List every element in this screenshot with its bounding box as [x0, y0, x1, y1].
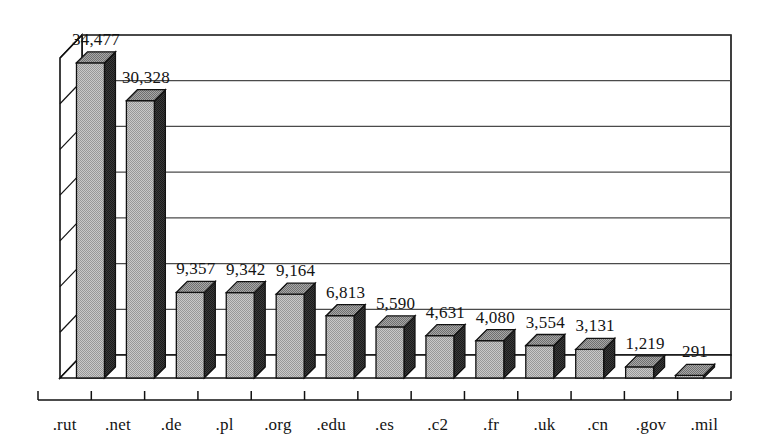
bar-net	[126, 90, 165, 378]
bar-front-face	[76, 63, 104, 378]
chart-canvas: 34,47730,3289,3579,3429,1646,8135,5904,6…	[0, 0, 771, 447]
bar-side-face	[104, 52, 115, 378]
bar-chart-figure: 34,47730,3289,3579,3429,1646,8135,5904,6…	[0, 0, 771, 447]
axis-group	[38, 391, 731, 400]
bar-front-face	[576, 349, 604, 378]
bar-c2	[426, 325, 465, 378]
bar-edu	[326, 305, 365, 378]
category-label-rut: .rut	[53, 415, 77, 434]
value-label-mil: 291	[682, 342, 708, 361]
value-label-org: 9,164	[276, 261, 316, 280]
value-label-gov: 1,219	[625, 334, 664, 353]
bar-front-face	[126, 101, 154, 378]
bar-front-face	[276, 294, 304, 378]
bar-side-face	[354, 305, 365, 378]
value-label-uk: 3,554	[526, 313, 566, 332]
bar-front-face	[326, 316, 354, 378]
bar-rut	[76, 52, 115, 378]
category-label-uk: .uk	[533, 415, 555, 434]
bar-side-face	[304, 283, 315, 378]
bar-uk	[526, 335, 565, 378]
category-label-fr: .fr	[483, 415, 499, 434]
bar-front-face	[176, 292, 204, 378]
value-label-de: 9,357	[176, 259, 216, 278]
value-label-edu: 6,813	[326, 283, 365, 302]
value-label-pl: 9,342	[226, 260, 265, 279]
bar-de	[176, 281, 215, 378]
category-label-c2: .c2	[427, 415, 448, 434]
bar-front-face	[376, 327, 404, 378]
value-label-rut: 34,477	[72, 30, 120, 49]
bar-side-face	[154, 90, 165, 378]
bar-side-face	[254, 282, 265, 378]
value-label-fr: 4,080	[476, 308, 515, 327]
category-label-de: .de	[161, 415, 182, 434]
category-label-pl: .pl	[216, 415, 234, 434]
bar-front-face	[526, 346, 554, 378]
value-label-es: 5,590	[376, 294, 415, 313]
bar-fr	[476, 330, 515, 378]
bar-pl	[226, 282, 265, 378]
category-label-org: .org	[264, 415, 292, 434]
bar-org	[276, 283, 315, 378]
category-label-mil: .mil	[690, 415, 718, 434]
category-label-gov: .gov	[636, 415, 667, 434]
bar-es	[376, 316, 415, 378]
bar-front-face	[226, 293, 254, 378]
value-label-c2: 4,631	[426, 303, 465, 322]
category-label-net: .net	[105, 415, 131, 434]
bar-cn	[576, 338, 615, 378]
bar-front-face	[426, 336, 454, 378]
bar-side-face	[204, 281, 215, 378]
category-label-cn: .cn	[587, 415, 608, 434]
category-label-es: .es	[375, 415, 394, 434]
value-label-cn: 3,131	[576, 316, 615, 335]
category-label-edu: .edu	[316, 415, 346, 434]
value-label-net: 30,328	[122, 68, 170, 87]
category-labels-group: .rut.net.de.pl.org.edu.es.c2.fr.uk.cn.go…	[53, 415, 719, 434]
bar-front-face	[626, 367, 654, 378]
bar-front-face	[476, 341, 504, 378]
